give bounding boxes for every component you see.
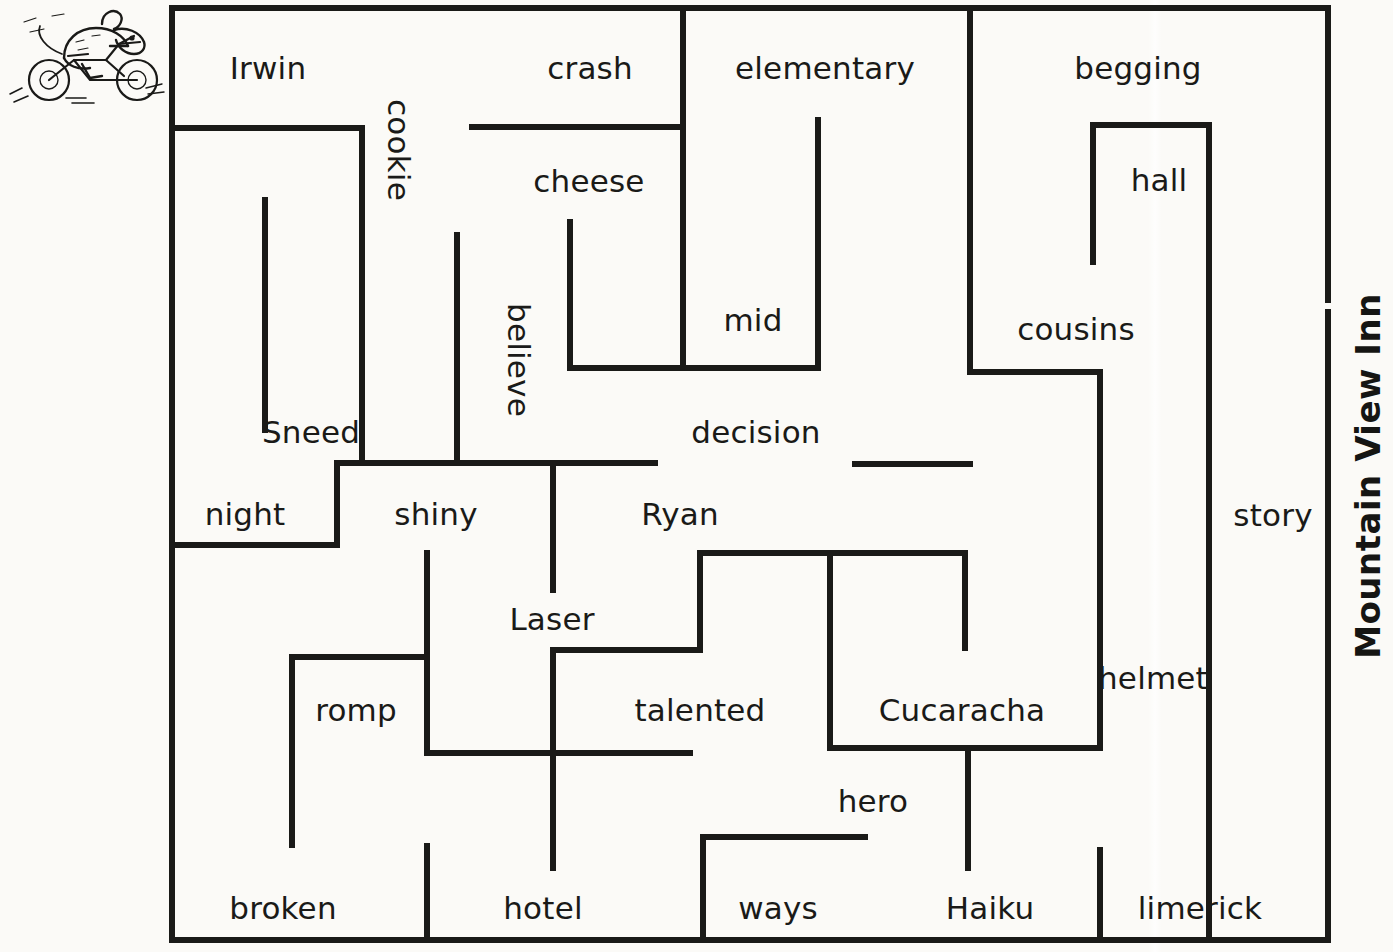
maze-word-label: Irwin bbox=[230, 53, 307, 84]
maze-word-label: shiny bbox=[394, 499, 477, 530]
maze-word-label: cheese bbox=[533, 166, 644, 197]
maze-word-label: night bbox=[205, 499, 286, 530]
maze-word-label: cookie bbox=[383, 99, 414, 201]
maze-word-label: limerick bbox=[1138, 893, 1262, 924]
maze-word-label: cousins bbox=[1017, 314, 1135, 345]
maze-word-label: hall bbox=[1131, 165, 1188, 196]
side-title: Mountain View Inn bbox=[1348, 293, 1388, 659]
maze-word-label: broken bbox=[229, 893, 336, 924]
maze-word-label: Haiku bbox=[946, 893, 1035, 924]
maze-word-label: hero bbox=[838, 786, 909, 817]
maze-word-label: talented bbox=[635, 695, 766, 726]
maze-word-label: mid bbox=[723, 305, 782, 336]
maze-word-label: helmet bbox=[1098, 663, 1208, 694]
maze-word-label: decision bbox=[691, 417, 820, 448]
maze-page: Irwincrashelementarybeggingcookiecheeseh… bbox=[0, 0, 1393, 952]
maze-word-label: hotel bbox=[503, 893, 582, 924]
maze-word-label: romp bbox=[315, 695, 397, 726]
maze-word-label: Ryan bbox=[641, 499, 719, 530]
maze-word-label: Laser bbox=[509, 604, 594, 635]
maze-word-label: story bbox=[1233, 500, 1312, 531]
maze-word-label: begging bbox=[1074, 53, 1201, 84]
maze-word-label: Cucaracha bbox=[879, 695, 1046, 726]
maze-word-label: elementary bbox=[735, 53, 915, 84]
maze-word-label: Sneed bbox=[262, 417, 360, 448]
maze-word-label: believe bbox=[503, 303, 534, 417]
maze-word-label: crash bbox=[547, 53, 633, 84]
maze-word-label: ways bbox=[738, 893, 818, 924]
maze-walls bbox=[0, 0, 1393, 952]
